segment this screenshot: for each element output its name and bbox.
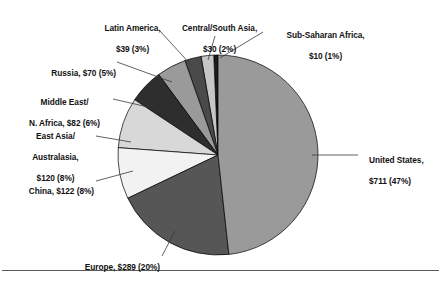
slice-label-united-states-line2: $711 (47%) bbox=[369, 176, 411, 186]
pie-chart-figure: Latin America, $39 (3%) Central/South As… bbox=[0, 0, 441, 283]
pie-slices bbox=[118, 55, 318, 255]
slice-label-east-asia-line2: Australasia, bbox=[32, 152, 78, 162]
slice-label-china: China, $122 (8%) bbox=[4, 175, 94, 207]
slice-label-sub-saharan-africa: Sub-Saharan Africa, $10 (1%) bbox=[265, 19, 377, 72]
slice-label-middle-east-line1: Middle East/ bbox=[41, 97, 89, 107]
slice-label-sub-saharan-africa-line1: Sub-Saharan Africa, bbox=[286, 30, 364, 40]
slice-label-europe-line1: Europe, $289 (20%) bbox=[85, 262, 160, 272]
slice-label-europe: Europe, $289 (20%) bbox=[48, 251, 160, 283]
slice-label-central-south-asia-line2: $30 (2%) bbox=[203, 44, 236, 54]
slice-label-latin-america-line2: $39 (3%) bbox=[116, 44, 149, 54]
slice-label-central-south-asia: Central/South Asia, $30 (2%) bbox=[160, 12, 270, 65]
slice-label-east-asia-line1: East Asia/ bbox=[36, 131, 75, 141]
slice-label-united-states: United States, $711 (47%) bbox=[360, 144, 440, 197]
slice-label-latin-america-line1: Latin America, bbox=[104, 23, 160, 33]
slice-label-united-states-line1: United States, bbox=[369, 155, 424, 165]
slice-label-sub-saharan-africa-line2: $10 (1%) bbox=[309, 51, 342, 61]
slice-label-central-south-asia-line1: Central/South Asia, bbox=[182, 23, 257, 33]
slice-label-russia: Russia, $70 (5%) bbox=[8, 57, 116, 89]
slice-label-china-line1: China, $122 (8%) bbox=[29, 186, 94, 196]
slice-label-russia-line1: Russia, $70 (5%) bbox=[51, 68, 116, 78]
pie-slice-united-states bbox=[218, 55, 318, 254]
